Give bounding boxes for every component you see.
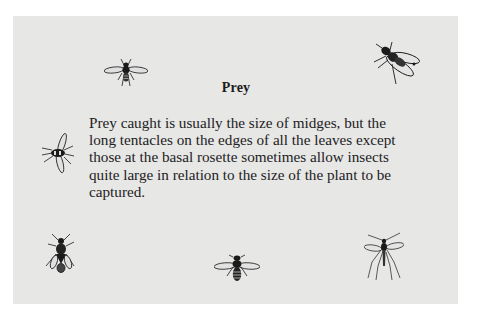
body-line: captured. — [89, 183, 389, 200]
page: Prey Prey caught is usually the size of … — [0, 0, 478, 316]
body-line: those at the basal rosette sometimes all… — [89, 148, 389, 165]
body-line: long tentacles on the edges of all the l… — [89, 131, 389, 148]
housefly-icon — [372, 40, 422, 88]
body-line: quite large in relation to the size of t… — [89, 166, 389, 183]
body-line: Prey caught is usually the size of midge… — [89, 114, 389, 131]
panel-body-text: Prey caught is usually the size of midge… — [89, 114, 389, 200]
fly-icon — [44, 232, 78, 276]
fly-icon — [40, 132, 76, 176]
mosquito-icon — [364, 232, 404, 282]
fly-icon — [104, 56, 148, 90]
wasp-icon — [214, 254, 260, 286]
